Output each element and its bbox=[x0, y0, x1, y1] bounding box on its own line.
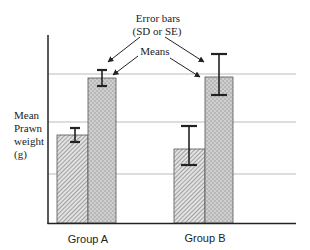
annotation-error-bars-line1: Error bars bbox=[136, 12, 180, 24]
arrow-means-a bbox=[113, 56, 138, 75]
y-axis-label-line1: Mean bbox=[14, 109, 40, 121]
bar-group-a-treatment-2 bbox=[88, 78, 116, 223]
annotation-error-bars-line2: (SD or SE) bbox=[133, 25, 182, 38]
annotation-means: Means bbox=[140, 45, 169, 57]
y-axis-label-line2: Prawn bbox=[14, 122, 43, 134]
bars bbox=[57, 77, 233, 223]
bar-chart: Error bars (SD or SE) Means Mean Prawn w… bbox=[0, 0, 310, 250]
x-label-group-a: Group A bbox=[68, 233, 109, 245]
bar-group-b-treatment-2 bbox=[205, 77, 233, 223]
annotation-arrows bbox=[108, 37, 204, 77]
bar-group-a-treatment-1 bbox=[57, 135, 88, 223]
y-axis-label-line3: weight bbox=[14, 135, 44, 147]
x-label-group-b: Group B bbox=[185, 232, 226, 244]
y-axis-label-line4: (g) bbox=[14, 148, 27, 161]
